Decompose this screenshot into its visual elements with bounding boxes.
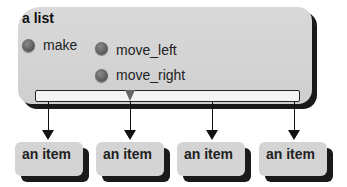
item-box: an item xyxy=(259,142,327,176)
list-title: a list xyxy=(22,10,54,26)
method-label: move_right xyxy=(116,67,185,83)
circle-icon xyxy=(95,69,108,82)
arrow-down-icon xyxy=(42,130,54,140)
item-box: an item xyxy=(15,142,83,176)
method-make: make xyxy=(22,37,77,53)
arrow-line xyxy=(294,101,296,131)
arrow-down-icon xyxy=(124,130,136,140)
method-label: move_left xyxy=(116,42,177,58)
circle-icon xyxy=(22,39,35,52)
arrow-down-icon xyxy=(206,130,218,140)
item-label: an item xyxy=(22,146,71,162)
arrow-line xyxy=(212,101,214,131)
current-pointer-triangle-icon xyxy=(125,90,135,101)
arrow-down-icon xyxy=(288,130,300,140)
item-label: an item xyxy=(103,146,152,162)
arrow-line xyxy=(48,101,50,131)
arrow-line xyxy=(130,101,132,131)
circle-icon xyxy=(95,42,108,55)
method-move-left: move_left xyxy=(95,38,177,58)
item-label: an item xyxy=(266,146,315,162)
list-storage-bar xyxy=(35,90,300,102)
item-box: an item xyxy=(96,142,164,176)
method-label: make xyxy=(43,37,77,53)
item-box: an item xyxy=(177,142,245,176)
method-move-right: move_right xyxy=(95,67,185,83)
item-label: an item xyxy=(184,146,233,162)
